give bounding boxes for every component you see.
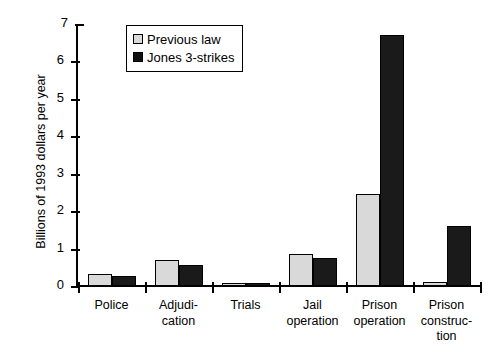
bar-jones-3-strikes-5 [447,226,471,286]
category-label-line: construc- [413,314,480,330]
legend-label-jones-3-strikes: Jones 3-strikes [147,50,234,65]
legend-swatch-icon-previous-law [133,34,143,44]
bar-previous-law-0 [88,274,112,286]
x-axis-category-labels: PoliceAdjudi-cationTrialsJailoperationPr… [76,298,480,360]
bar-chart: Billions of 1993 dollars per year 012345… [0,0,495,362]
x-tick-6 [480,282,482,293]
bar-previous-law-1 [155,260,179,286]
y-tick-label-5: 5 [42,90,64,106]
y-tick-label-3: 3 [42,165,64,181]
bar-jones-3-strikes-2 [246,283,270,286]
y-tick-label-2: 2 [42,202,64,218]
chart-legend: Previous law Jones 3-strikes [126,25,243,72]
category-label-0: Police [78,298,145,314]
legend-item-previous-law: Previous law [133,30,234,48]
category-label-line: Adjudi- [145,298,212,314]
legend-label-previous-law: Previous law [147,32,221,47]
bar-jones-3-strikes-0 [112,276,136,286]
category-label-line: Jail [279,298,346,314]
bar-previous-law-4 [356,194,380,286]
category-label-3: Jailoperation [279,298,346,329]
category-label-1: Adjudi-cation [145,298,212,329]
category-label-5: Prisonconstruc-tion [413,298,480,345]
category-label-line: cation [145,314,212,330]
category-label-line: Trials [212,298,279,314]
y-tick-label-0: 0 [42,277,64,293]
category-label-line: operation [279,314,346,330]
category-label-line: tion [413,329,480,345]
y-tick-label-7: 7 [46,15,68,31]
bar-previous-law-5 [423,282,447,286]
category-label-line: Prison [346,298,413,314]
legend-swatch-icon-jones-3-strikes [133,52,143,62]
category-label-line: Police [78,298,145,314]
bar-jones-3-strikes-4 [380,35,404,286]
bar-previous-law-3 [289,254,313,286]
category-label-line: operation [346,314,413,330]
legend-item-jones-3-strikes: Jones 3-strikes [133,48,234,66]
y-tick-label-4: 4 [42,127,64,143]
y-tick-label-6: 6 [42,52,64,68]
category-label-line: Prison [413,298,480,314]
category-label-2: Trials [212,298,279,314]
bar-jones-3-strikes-3 [313,258,337,286]
category-label-4: Prisonoperation [346,298,413,329]
bar-jones-3-strikes-1 [179,265,203,286]
bar-previous-law-2 [222,283,246,286]
y-tick-label-1: 1 [42,240,64,256]
